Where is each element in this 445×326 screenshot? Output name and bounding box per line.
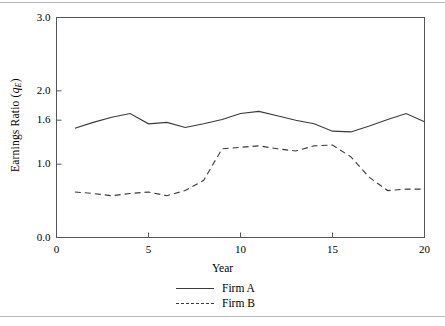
- legend-item-firm-a: Firm A: [176, 280, 306, 295]
- line-chart-plot: [0, 0, 445, 326]
- x-axis-label: Year: [0, 262, 445, 274]
- y-axis-label-close-paren: ): [9, 78, 21, 82]
- legend-label-firm-b: Firm B: [222, 297, 255, 309]
- x-tick-label: 15: [318, 243, 348, 255]
- y-tick-label: 1.0: [21, 157, 51, 169]
- y-axis-label-variable: q: [9, 87, 21, 93]
- x-tick-label: 10: [226, 243, 256, 255]
- legend-item-firm-b: Firm B: [176, 295, 306, 310]
- x-tick-label: 0: [42, 243, 72, 255]
- x-tick-label: 20: [410, 243, 440, 255]
- y-tick-label: 3.0: [21, 11, 51, 23]
- x-tick-label: 5: [134, 243, 164, 255]
- chart-legend: Firm A Firm B: [176, 280, 306, 310]
- y-tick-label: 1.6: [21, 113, 51, 125]
- plot-axes-frame: [57, 18, 425, 238]
- y-tick-label: 0.0: [21, 231, 51, 243]
- figure-container: Earnings Ratio (qE) Year 0.01.01.62.03.0…: [0, 0, 445, 326]
- legend-swatch-solid-line: [176, 283, 214, 293]
- y-tick-label: 2.0: [21, 84, 51, 96]
- legend-swatch-dashed-line: [176, 298, 214, 308]
- y-axis-label-text: Earnings Ratio (: [9, 93, 21, 172]
- legend-label-firm-a: Firm A: [222, 282, 255, 294]
